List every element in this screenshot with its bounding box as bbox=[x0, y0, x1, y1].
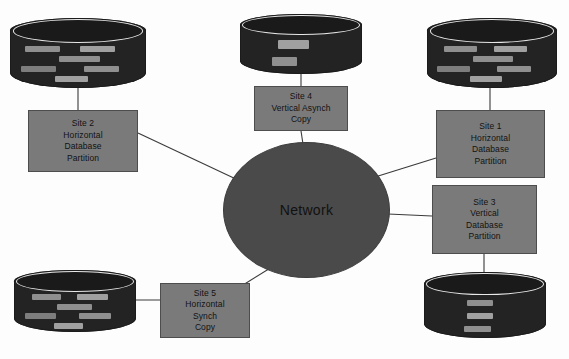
edge-box3-to-network bbox=[388, 214, 432, 216]
site-box-site5[interactable]: Site 5 Horizontal Synch Copy bbox=[160, 283, 250, 338]
record-bar bbox=[464, 326, 491, 332]
record-bar bbox=[272, 57, 297, 66]
edge-box2-to-network bbox=[138, 133, 238, 180]
record-bar bbox=[470, 76, 502, 82]
record-bar bbox=[25, 313, 56, 319]
site-box-line: Site 3 bbox=[473, 197, 495, 209]
site-box-line: Site 2 bbox=[72, 118, 94, 130]
site-box-line: Copy bbox=[195, 322, 215, 334]
site-box-line: Database bbox=[64, 141, 101, 153]
site-box-line: Horizontal bbox=[185, 299, 224, 311]
database-cylinder-site5 bbox=[14, 270, 136, 332]
record-bar bbox=[494, 46, 527, 52]
site-box-line: Partition bbox=[474, 156, 506, 168]
site-box-site2[interactable]: Site 2 Horizontal Database Partition bbox=[28, 110, 138, 172]
record-bar bbox=[25, 46, 59, 52]
database-cylinder-site4 bbox=[240, 14, 362, 74]
site-box-line: Horizontal bbox=[63, 130, 102, 142]
diagram-canvas: Network Site 2 Horizontal Database Parti… bbox=[0, 0, 569, 359]
site-box-line: Partition bbox=[67, 153, 99, 165]
record-bar bbox=[444, 46, 477, 52]
edge-box1-to-network bbox=[375, 158, 436, 177]
record-bar bbox=[79, 313, 111, 319]
cylinder-records bbox=[434, 296, 536, 334]
record-bar bbox=[77, 294, 108, 300]
record-bar bbox=[21, 66, 56, 72]
network-label: Network bbox=[280, 202, 333, 218]
record-bar bbox=[467, 300, 494, 306]
site-box-site3[interactable]: Site 3 Vertical Database Partition bbox=[432, 185, 537, 254]
record-bar bbox=[473, 56, 512, 62]
cylinder-top-ellipse bbox=[13, 19, 144, 43]
site-box-line: Vertical Asynch bbox=[271, 103, 330, 115]
record-bar bbox=[57, 304, 93, 310]
record-bar bbox=[278, 40, 309, 49]
site-box-line: Site 1 bbox=[479, 121, 501, 133]
record-bar bbox=[497, 66, 531, 72]
record-bar bbox=[54, 323, 83, 329]
site-box-line: Site 4 bbox=[290, 91, 312, 103]
cylinder-records bbox=[21, 43, 135, 84]
site-box-line: Site 5 bbox=[194, 288, 216, 300]
site-box-site1[interactable]: Site 1 Horizontal Database Partition bbox=[436, 110, 545, 178]
database-cylinder-site1 bbox=[427, 18, 557, 88]
database-cylinder-site3 bbox=[424, 272, 546, 338]
record-bar bbox=[467, 313, 494, 319]
cylinder-records bbox=[250, 36, 352, 71]
site-box-line: Partition bbox=[468, 231, 500, 243]
record-bar bbox=[84, 66, 119, 72]
site-box-line: Synch bbox=[193, 311, 217, 323]
network-node[interactable]: Network bbox=[223, 142, 390, 278]
cylinder-records bbox=[437, 43, 546, 84]
cylinder-top-ellipse bbox=[430, 19, 555, 43]
site-box-line: Horizontal bbox=[471, 133, 510, 145]
site-box-line: Vertical bbox=[470, 208, 499, 220]
record-bar bbox=[437, 66, 470, 72]
site-box-line: Database bbox=[466, 220, 503, 232]
cylinder-top-ellipse bbox=[16, 271, 133, 292]
site-box-line: Database bbox=[472, 144, 509, 156]
database-cylinder-site2 bbox=[10, 18, 146, 88]
site-box-line: Copy bbox=[291, 114, 311, 126]
record-bar bbox=[32, 294, 61, 300]
record-bar bbox=[59, 56, 100, 62]
record-bar bbox=[80, 46, 114, 52]
cylinder-records bbox=[24, 292, 126, 328]
site-box-site4[interactable]: Site 4 Vertical Asynch Copy bbox=[254, 86, 348, 131]
record-bar bbox=[55, 76, 88, 82]
